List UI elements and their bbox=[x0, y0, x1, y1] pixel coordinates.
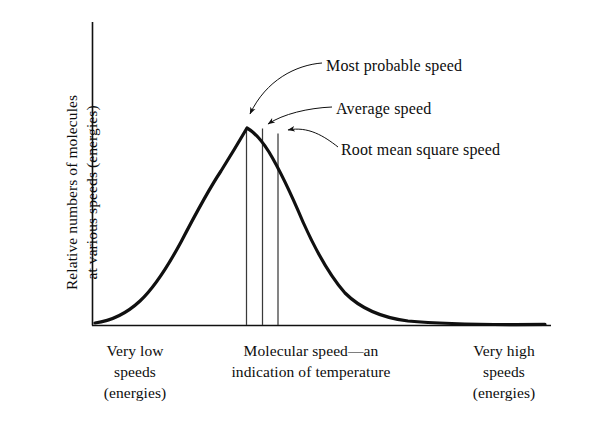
x-axis-label-high-line1: Very high bbox=[440, 340, 568, 361]
x-axis-label-low-line1: Very low bbox=[74, 340, 196, 361]
x-axis-label-high-line3: (energies) bbox=[440, 382, 568, 403]
y-axis-title-line1: Relative numbers of molecules bbox=[62, 22, 82, 362]
x-axis-label-high-line2: speeds bbox=[440, 361, 568, 382]
leader-line-most-probable-speed bbox=[250, 63, 322, 114]
y-axis-title: Relative numbers of molecules at various… bbox=[62, 22, 103, 362]
x-axis-label-low-line2: speeds bbox=[74, 361, 196, 382]
x-axis-title-line1: Molecular speed—an bbox=[196, 340, 426, 361]
leader-line-root-mean-square-speed bbox=[288, 129, 338, 147]
x-axis-title-molecular-speed: Molecular speed—an indication of tempera… bbox=[196, 340, 426, 382]
annotation-most-probable-speed: Most probable speed bbox=[326, 57, 462, 75]
x-axis-title-line2: indication of temperature bbox=[196, 361, 426, 382]
x-axis-label-low-line3: (energies) bbox=[74, 382, 196, 403]
leader-line-average-speed bbox=[268, 107, 332, 124]
y-axis-title-line2: at various speeds (energies) bbox=[82, 22, 102, 362]
annotation-average-speed: Average speed bbox=[336, 100, 431, 118]
annotation-root-mean-square-speed: Root mean square speed bbox=[341, 141, 500, 159]
x-axis-label-high-speeds: Very high speeds (energies) bbox=[440, 340, 568, 404]
x-axis-label-low-speeds: Very low speeds (energies) bbox=[74, 340, 196, 404]
figure-maxwell-boltzmann-distribution: Relative numbers of molecules at various… bbox=[0, 0, 593, 433]
